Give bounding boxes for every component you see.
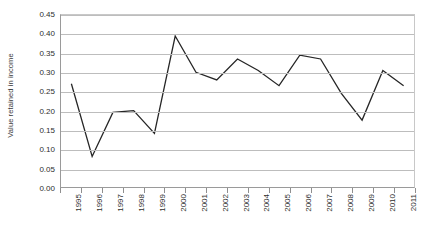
x-tick [185,188,186,193]
x-tick [102,188,103,193]
gridline [61,54,414,55]
x-tick [81,188,82,193]
y-tick-label: 0.25 [39,87,55,96]
x-tick-label: 2010 [388,194,397,212]
x-tick [164,188,165,193]
x-tick [352,188,353,193]
x-tick-label: 1995 [74,194,83,212]
x-tick [311,188,312,193]
x-tick [60,188,61,193]
x-tick-label: 2002 [221,194,230,212]
x-tick [227,188,228,193]
x-tick-label: 2003 [242,194,251,212]
x-tick [248,188,249,193]
x-tick-label: 1998 [137,194,146,212]
y-tick-label: 0.30 [39,68,55,77]
x-tick-label: 1996 [95,194,104,212]
series-line [61,15,414,187]
gridline [61,92,414,93]
gridline [61,170,414,171]
x-tick-label: 2005 [283,194,292,212]
x-tick [394,188,395,193]
y-tick-label: 0.10 [39,145,55,154]
x-tick [415,188,416,193]
y-tick-label: 0.35 [39,48,55,57]
x-tick-label: 2007 [325,194,334,212]
y-axis-title: Value retained in income [0,0,20,190]
y-tick-label: 0.40 [39,29,55,38]
y-axis-tick-labels: 0.000.050.100.150.200.250.300.350.400.45 [20,0,58,195]
gridline [61,34,414,35]
x-tick-label: 2009 [367,194,376,212]
y-tick-label: 0.15 [39,126,55,135]
gridline [61,73,414,74]
x-tick [373,188,374,193]
plot-area [60,14,415,188]
x-tick [206,188,207,193]
x-tick-label: 2008 [346,194,355,212]
y-tick-label: 0.05 [39,164,55,173]
gridline [61,112,414,113]
x-tick-label: 2006 [304,194,313,212]
x-tick [331,188,332,193]
y-tick-label: 0.00 [39,184,55,193]
y-tick-label: 0.45 [39,10,55,19]
x-tick [144,188,145,193]
x-tick [290,188,291,193]
x-tick-label: 2011 [409,194,418,211]
gridline [61,131,414,132]
y-tick-label: 0.20 [39,106,55,115]
x-tick-label: 1999 [158,194,167,212]
x-tick-label: 2004 [262,194,271,212]
y-axis-title-label: Value retained in income [6,53,15,137]
x-tick [269,188,270,193]
caption-sliver [8,228,238,237]
x-tick-label: 2001 [200,194,209,212]
gridline [61,15,414,16]
gridline [61,150,414,151]
chart-figure: Value retained in income 0.000.050.100.1… [0,0,437,237]
x-tick-label: 2000 [179,194,188,212]
x-tick-label: 1997 [116,194,125,212]
x-tick [123,188,124,193]
